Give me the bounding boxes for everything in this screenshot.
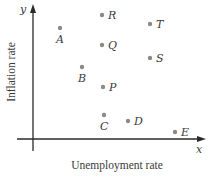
plot-area: y x Inflation rate Unemployment rate ARQ… bbox=[0, 0, 210, 177]
point-label: A bbox=[55, 33, 64, 46]
x-axis-arrow-icon bbox=[197, 136, 206, 142]
y-axis-title: Inflation rate bbox=[5, 42, 17, 102]
data-point-b: B bbox=[77, 65, 86, 85]
data-point-t: T bbox=[148, 18, 165, 31]
data-point-s: S bbox=[148, 52, 164, 65]
point-marker-icon bbox=[58, 26, 62, 30]
y-axis-symbol: y bbox=[19, 3, 27, 16]
point-label: S bbox=[156, 52, 164, 65]
y-axis-arrow-icon bbox=[30, 4, 36, 13]
point-marker-icon bbox=[148, 56, 152, 60]
x-axis-symbol: x bbox=[196, 143, 203, 156]
point-label: T bbox=[156, 18, 165, 31]
point-label: P bbox=[108, 81, 117, 94]
point-label: R bbox=[107, 9, 116, 22]
point-marker-icon bbox=[148, 22, 152, 26]
data-point-p: P bbox=[101, 81, 117, 94]
point-marker-icon bbox=[80, 65, 84, 69]
data-point-d: D bbox=[126, 115, 143, 128]
data-point-q: Q bbox=[100, 39, 117, 52]
point-label: C bbox=[100, 120, 109, 133]
point-label: Q bbox=[108, 39, 117, 52]
point-marker-icon bbox=[126, 119, 130, 123]
point-marker-icon bbox=[101, 85, 105, 89]
point-marker-icon bbox=[100, 13, 104, 17]
data-point-e: E bbox=[173, 126, 189, 139]
data-point-a: A bbox=[55, 26, 64, 46]
point-label: E bbox=[180, 126, 189, 139]
point-label: D bbox=[133, 115, 143, 128]
scatter-chart: y x Inflation rate Unemployment rate ARQ… bbox=[0, 0, 210, 177]
x-axis-title: Unemployment rate bbox=[71, 159, 163, 172]
point-marker-icon bbox=[100, 43, 104, 47]
point-label: B bbox=[77, 72, 86, 85]
data-point-r: R bbox=[100, 9, 116, 22]
data-point-c: C bbox=[100, 113, 109, 133]
point-marker-icon bbox=[102, 113, 106, 117]
data-points: ARQTSBPCDE bbox=[55, 9, 189, 139]
point-marker-icon bbox=[173, 130, 177, 134]
